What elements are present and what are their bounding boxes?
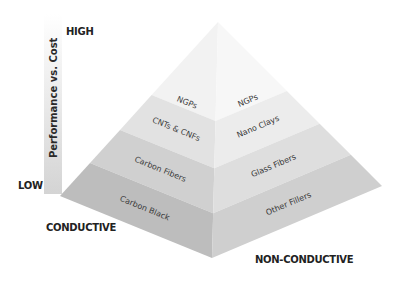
low-label: LOW xyxy=(18,180,43,191)
high-label: HIGH xyxy=(66,26,93,37)
conductive-label: CONDUCTIVE xyxy=(46,222,116,233)
performance-axis-title: Performance vs. Cost xyxy=(48,37,59,158)
non-conductive-label: NON-CONDUCTIVE xyxy=(255,254,353,265)
pyramid-diagram: Performance vs. Cost NGPsNGPsCNTs & CNFs… xyxy=(0,0,394,285)
